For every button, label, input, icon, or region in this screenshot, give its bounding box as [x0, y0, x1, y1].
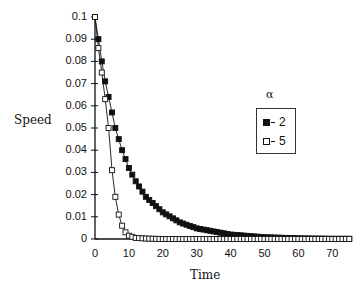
filled-square-marker [140, 189, 145, 194]
filled-square-marker [96, 37, 101, 42]
filled-square-marker [126, 165, 131, 170]
filled-square-marker [116, 137, 121, 142]
legend-item-5: 5 [263, 134, 286, 148]
open-square-marker [347, 237, 352, 242]
line-icon [271, 122, 275, 123]
legend-item-2: 2 [263, 115, 286, 129]
series-line-2 [95, 17, 349, 239]
line-icon [271, 141, 275, 142]
filled-square-marker [120, 148, 125, 153]
open-square-marker [96, 46, 101, 51]
open-square-marker [116, 212, 121, 217]
x-axis-title: Time [190, 268, 220, 282]
y-tick-label: 0.08 [57, 54, 87, 66]
y-tick-label: 0 [57, 232, 87, 244]
y-axis-title: Speed [14, 113, 52, 127]
filled-square-marker [130, 172, 135, 177]
filled-square-marker [133, 179, 138, 184]
legend-title: α [266, 88, 273, 101]
y-tick-label: 0.01 [57, 210, 87, 222]
x-tick-label: 0 [83, 247, 107, 259]
open-square-marker [106, 126, 111, 131]
y-tick-label: 0.06 [57, 99, 87, 111]
open-square-marker-icon [263, 138, 270, 145]
x-tick-label: 20 [151, 247, 175, 259]
x-tick-label: 50 [253, 247, 277, 259]
x-tick-label: 70 [320, 247, 344, 259]
open-square-marker [93, 15, 98, 20]
legend-label: 2 [279, 115, 286, 129]
filled-square-marker [113, 126, 118, 131]
y-tick-label: 0.03 [57, 165, 87, 177]
open-square-marker [99, 70, 104, 75]
filled-square-marker [137, 184, 142, 189]
legend-label: 5 [279, 134, 286, 148]
open-square-marker [103, 97, 108, 102]
filled-square-marker [109, 110, 114, 115]
filled-square-marker [123, 157, 128, 162]
x-tick-label: 30 [185, 247, 209, 259]
series-line-5 [95, 17, 349, 239]
open-square-marker [120, 223, 125, 228]
y-tick-label: 0.05 [57, 121, 87, 133]
open-square-marker [113, 194, 118, 199]
open-square-marker [109, 168, 114, 173]
y-tick-label: 0.1 [57, 10, 87, 22]
x-tick-label: 10 [117, 247, 141, 259]
filled-square-marker-icon [263, 119, 270, 126]
y-tick-label: 0.02 [57, 188, 87, 200]
y-tick-label: 0.07 [57, 77, 87, 89]
y-tick-label: 0.09 [57, 32, 87, 44]
x-tick-label: 60 [286, 247, 310, 259]
legend: 2 5 [256, 108, 296, 154]
y-tick-label: 0.04 [57, 143, 87, 155]
x-tick-label: 40 [219, 247, 243, 259]
